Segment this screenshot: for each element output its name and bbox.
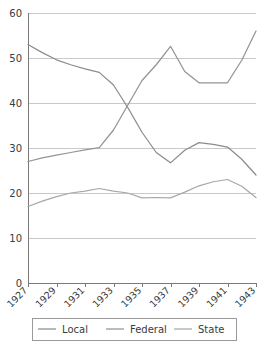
y-tick-label-40: 40 bbox=[9, 98, 22, 109]
y-tick-label-30: 30 bbox=[9, 143, 22, 154]
y-tick-label-20: 20 bbox=[9, 188, 22, 199]
legend-label-federal: Federal bbox=[130, 324, 167, 335]
legend-label-state: State bbox=[198, 324, 224, 335]
chart-legend: LocalFederalState bbox=[33, 319, 237, 341]
y-tick-label-50: 50 bbox=[9, 53, 22, 64]
y-tick-label-10: 10 bbox=[9, 233, 22, 244]
y-tick-label-60: 60 bbox=[9, 8, 22, 19]
line-chart: 6050403020100 19271929193119331935193719… bbox=[0, 0, 268, 344]
chart-canvas: 6050403020100 19271929193119331935193719… bbox=[0, 0, 268, 344]
legend-label-local: Local bbox=[62, 324, 88, 335]
